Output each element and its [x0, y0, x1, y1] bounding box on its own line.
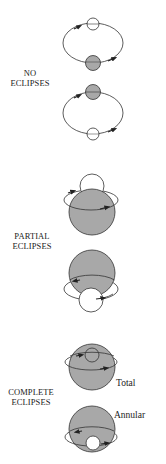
label-partial-eclipses: PARTIAL ECLIPSES [5, 231, 59, 251]
no-eclipse-config-2 [63, 85, 123, 141]
eclipsing-binary-diagram: NO ECLIPSES PARTIAL ECLIPSES COMPLETE EC… [0, 0, 166, 464]
partial-eclipse-config-1 [64, 174, 118, 235]
label-complete-eclipses: COMPLETE ECLIPSES [3, 387, 59, 407]
no-eclipse-config-1 [63, 18, 123, 71]
partial-eclipse-config-2 [64, 250, 118, 312]
annular-eclipse-config [65, 406, 117, 452]
primary-star [86, 56, 101, 71]
sublabel-annular: Annular [114, 410, 145, 421]
primary-star [69, 344, 115, 390]
label-line: ECLIPSES [3, 397, 59, 407]
label-no-eclipses: NO ECLIPSES [4, 68, 56, 88]
companion-star [86, 436, 100, 450]
label-line: PARTIAL [5, 231, 59, 241]
label-line: COMPLETE [3, 387, 59, 397]
sublabel-total: Total [116, 378, 135, 389]
total-eclipse-config [65, 344, 117, 390]
primary-star [69, 189, 115, 235]
label-line: ECLIPSES [4, 78, 56, 88]
companion-star [79, 288, 103, 312]
label-line: ECLIPSES [5, 241, 59, 251]
label-line: NO [4, 68, 56, 78]
